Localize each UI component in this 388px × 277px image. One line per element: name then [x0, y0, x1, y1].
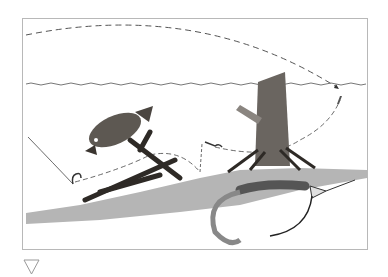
cast-arc [26, 25, 338, 88]
tree-stump [228, 72, 315, 172]
water-surface [26, 83, 366, 85]
fishing-illustration [0, 0, 388, 277]
triangle-down-icon[interactable] [23, 259, 40, 275]
